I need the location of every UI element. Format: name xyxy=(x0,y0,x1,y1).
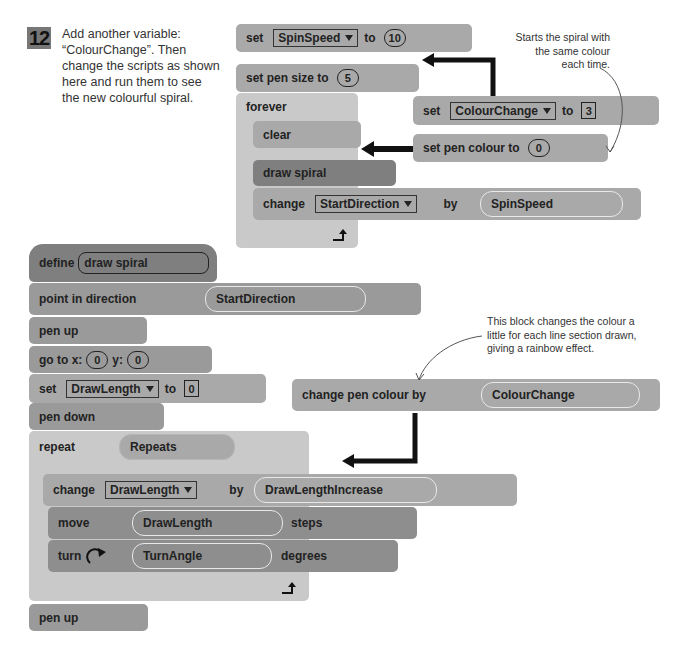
block-label-degrees: degrees xyxy=(281,549,327,563)
block-label: set pen colour to xyxy=(423,141,520,155)
block-label: pen up xyxy=(39,611,78,625)
block-label: draw spiral xyxy=(263,166,326,180)
insert-arrow-icon xyxy=(352,413,415,461)
variable-dropdown[interactable]: ColourChange xyxy=(450,102,556,120)
block-label: go to x: xyxy=(39,353,82,367)
variable-dropdown[interactable]: DrawLength xyxy=(105,481,197,499)
dropdown-arrow-icon xyxy=(146,386,154,392)
block-label-to: to xyxy=(165,382,176,396)
block-label-to: to xyxy=(364,31,375,45)
dropdown-arrow-icon xyxy=(184,487,192,493)
dropdown-value: ColourChange xyxy=(455,104,538,118)
block-label-by: by xyxy=(443,197,457,211)
forever-label: forever xyxy=(236,93,358,121)
reporter-label: DrawLengthIncrease xyxy=(265,483,383,497)
reporter-label: ColourChange xyxy=(492,388,575,402)
define-draw-spiral-block[interactable]: define draw spiral xyxy=(29,244,217,282)
dropdown-arrow-icon xyxy=(404,201,412,207)
reporter-label: TurnAngle xyxy=(143,549,202,563)
draw-spiral-block[interactable]: draw spiral xyxy=(253,160,396,186)
change-drawlength-block[interactable]: change DrawLength by DrawLengthIncrease xyxy=(43,474,517,506)
move-steps-block[interactable]: move DrawLength steps xyxy=(48,507,417,539)
insert-arrow-icon xyxy=(432,60,493,96)
block-label: pen down xyxy=(39,410,95,424)
change-pen-colour-block[interactable]: change pen colour by ColourChange xyxy=(292,379,660,411)
turnangle-reporter[interactable]: TurnAngle xyxy=(132,543,272,569)
loop-arrow-icon xyxy=(282,582,296,594)
drawlengthincrease-reporter[interactable]: DrawLengthIncrease xyxy=(254,477,437,503)
pen-up-block-end[interactable]: pen up xyxy=(29,604,148,631)
block-label-steps: steps xyxy=(291,516,322,530)
value-input[interactable]: 0 xyxy=(184,380,199,397)
y-input[interactable]: 0 xyxy=(127,351,149,369)
go-to-xy-block[interactable]: go to x: 0 y: 0 xyxy=(29,346,212,373)
clear-block[interactable]: clear xyxy=(253,121,361,148)
block-label-y: y: xyxy=(112,353,123,367)
block-label: set xyxy=(39,382,56,396)
block-label: turn xyxy=(58,549,81,563)
variable-dropdown[interactable]: SpinSpeed xyxy=(273,29,358,47)
pen-down-block[interactable]: pen down xyxy=(29,403,164,430)
dropdown-value: SpinSpeed xyxy=(278,31,340,45)
block-label: pen up xyxy=(39,324,78,338)
reporter-label: DrawLength xyxy=(143,516,212,530)
pen-up-block[interactable]: pen up xyxy=(29,317,147,344)
startdirection-reporter[interactable]: StartDirection xyxy=(205,286,366,312)
block-label: change pen colour by xyxy=(302,388,426,402)
set-spinspeed-block[interactable]: set SpinSpeed to 10 xyxy=(236,24,472,52)
set-drawlength-block[interactable]: set DrawLength to 0 xyxy=(29,374,266,403)
block-label: move xyxy=(58,516,89,530)
repeat-label-row: repeat Repeats xyxy=(29,431,309,463)
point-in-direction-block[interactable]: point in direction StartDirection xyxy=(29,283,421,315)
block-label: clear xyxy=(263,128,291,142)
block-label-by: by xyxy=(229,483,243,497)
block-label-to: to xyxy=(562,104,573,118)
annotation-pointer-icon xyxy=(419,336,482,380)
dropdown-value: DrawLength xyxy=(71,382,140,396)
rotate-clockwise-icon xyxy=(86,546,108,566)
set-pen-size-block[interactable]: set pen size to 5 xyxy=(236,64,419,92)
set-colourchange-block[interactable]: set ColourChange to 3 xyxy=(413,96,659,125)
colourchange-reporter[interactable]: ColourChange xyxy=(481,382,640,408)
reporter-label: StartDirection xyxy=(216,292,295,306)
dropdown-arrow-icon xyxy=(543,108,551,114)
variable-dropdown[interactable]: StartDirection xyxy=(315,195,417,213)
value-input[interactable]: 0 xyxy=(528,139,550,157)
drawlength-reporter[interactable]: DrawLength xyxy=(132,510,283,536)
repeats-reporter[interactable]: Repeats xyxy=(119,434,235,460)
reporter-label: SpinSpeed xyxy=(491,197,553,211)
block-label: define xyxy=(39,256,74,270)
set-pen-colour-block[interactable]: set pen colour to 0 xyxy=(413,134,608,162)
custom-block-name[interactable]: draw spiral xyxy=(78,252,208,274)
block-label: repeat xyxy=(39,440,75,454)
block-label: change xyxy=(53,483,95,497)
change-startdirection-block[interactable]: change StartDirection by SpinSpeed xyxy=(253,188,641,220)
step-instruction: Add another variable: “ColourChange”. Th… xyxy=(62,26,222,106)
turn-degrees-block[interactable]: turn TurnAngle degrees xyxy=(48,540,398,572)
block-label: set xyxy=(423,104,440,118)
block-label: forever xyxy=(246,100,287,114)
step-number-badge: 12 xyxy=(27,27,51,49)
reporter-label: Repeats xyxy=(130,440,177,454)
x-input[interactable]: 0 xyxy=(86,351,108,369)
spinspeed-reporter[interactable]: SpinSpeed xyxy=(480,191,623,217)
block-label: set pen size to xyxy=(246,71,329,85)
block-label: point in direction xyxy=(39,292,136,306)
variable-dropdown[interactable]: DrawLength xyxy=(66,380,158,398)
loop-arrow-icon xyxy=(333,229,347,241)
dropdown-value: StartDirection xyxy=(320,197,399,211)
annotation-spiral-start: Starts the spiral with the same colour e… xyxy=(510,31,610,72)
dropdown-arrow-icon xyxy=(345,35,353,41)
value-input[interactable]: 5 xyxy=(337,69,359,87)
block-label: change xyxy=(263,197,305,211)
value-input[interactable]: 3 xyxy=(581,102,596,119)
value-input[interactable]: 10 xyxy=(384,29,406,47)
block-label: set xyxy=(246,31,263,45)
annotation-rainbow: This block changes the colour a little f… xyxy=(487,315,637,356)
dropdown-value: DrawLength xyxy=(110,483,179,497)
